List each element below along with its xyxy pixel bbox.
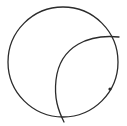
main-circle (8, 7, 118, 117)
diagram-canvas (0, 0, 127, 126)
intersecting-arc (55, 37, 119, 122)
diagram-svg (0, 0, 127, 126)
point-marker (108, 87, 111, 90)
